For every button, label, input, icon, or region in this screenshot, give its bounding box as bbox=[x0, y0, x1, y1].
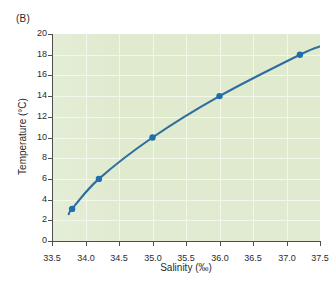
figure-panel-b: (B) 02468101214161820 33.534.034.535.035… bbox=[0, 0, 335, 283]
y-axis-tick bbox=[48, 138, 52, 139]
y-axis-tick bbox=[48, 55, 52, 56]
y-tick-text: 2 bbox=[42, 215, 47, 224]
y-tick-text: 20 bbox=[37, 29, 47, 38]
panel-label: (B) bbox=[16, 13, 30, 24]
y-tick-text: 14 bbox=[37, 91, 47, 100]
x-axis-tick bbox=[52, 242, 53, 246]
x-axis-label: Salinity (‰) bbox=[52, 262, 320, 273]
data-point-marker bbox=[297, 52, 303, 58]
plot-area bbox=[52, 34, 320, 241]
y-axis-tick bbox=[48, 158, 52, 159]
y-axis-tick-label: 2 bbox=[22, 215, 47, 224]
y-axis-tick-label: 18 bbox=[22, 50, 47, 59]
y-axis-tick bbox=[48, 75, 52, 76]
x-axis-tick bbox=[287, 242, 288, 246]
y-axis-tick bbox=[48, 34, 52, 35]
y-tick-text: 6 bbox=[42, 174, 47, 183]
y-axis-tick-label: 0 bbox=[22, 236, 47, 245]
y-tick-text: 8 bbox=[42, 153, 47, 162]
y-axis-tick bbox=[48, 117, 52, 118]
data-point-marker bbox=[149, 134, 155, 140]
series-line bbox=[69, 46, 320, 214]
data-point-marker bbox=[96, 176, 102, 182]
series-markers bbox=[69, 52, 303, 213]
x-axis-tick bbox=[153, 242, 154, 246]
y-axis-tick bbox=[48, 96, 52, 97]
y-tick-text: 18 bbox=[37, 50, 47, 59]
y-tick-text: 12 bbox=[37, 112, 47, 121]
y-axis-tick bbox=[48, 179, 52, 180]
x-axis-tick bbox=[253, 242, 254, 246]
y-tick-text: 16 bbox=[37, 70, 47, 79]
y-axis-line bbox=[52, 34, 53, 242]
y-tick-text: 4 bbox=[42, 195, 47, 204]
x-axis-tick bbox=[320, 242, 321, 246]
data-point-marker bbox=[69, 206, 75, 212]
x-axis-tick bbox=[119, 242, 120, 246]
x-axis-tick bbox=[186, 242, 187, 246]
y-axis-tick bbox=[48, 200, 52, 201]
x-axis-tick bbox=[220, 242, 221, 246]
data-point-marker bbox=[216, 93, 222, 99]
y-tick-text: 10 bbox=[37, 133, 47, 142]
x-axis-tick bbox=[86, 242, 87, 246]
y-axis-label: Temperature (°C) bbox=[17, 67, 28, 207]
y-axis-tick bbox=[48, 220, 52, 221]
y-axis-tick-label: 20 bbox=[22, 29, 47, 38]
y-tick-text: 0 bbox=[42, 236, 47, 245]
series-plot bbox=[52, 34, 320, 241]
